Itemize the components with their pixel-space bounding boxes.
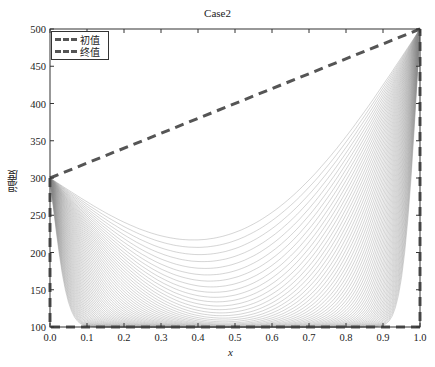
temperature-profile-curve [50, 29, 420, 306]
y-tick-label: 350 [30, 136, 46, 147]
legend-label: 终值 [80, 44, 100, 59]
y-axis-label: 温度 [5, 170, 21, 192]
temperature-profile-curve [50, 29, 420, 324]
dashed-line-icon [55, 50, 77, 53]
temperature-profile-curve [50, 29, 420, 325]
temperature-profile-curve [50, 29, 420, 316]
temperature-profile-curve [50, 29, 420, 318]
x-tick-label: 0.3 [154, 332, 167, 343]
y-tick-label: 300 [30, 173, 46, 184]
temperature-profile-curve [50, 29, 420, 326]
temperature-profile-curve [50, 29, 420, 326]
temperature-profile-curve [50, 29, 420, 287]
x-tick-label: 0.6 [265, 332, 278, 343]
y-tick-label: 450 [30, 61, 46, 72]
x-tick-label: 0.0 [43, 332, 56, 343]
x-tick-label: 0.2 [117, 332, 130, 343]
x-tick-label: 0.8 [339, 332, 352, 343]
legend: 初值 终值 [51, 31, 109, 60]
y-tick-label: 100 [30, 322, 46, 333]
y-tick-label: 150 [30, 285, 46, 296]
x-axis-label: x [228, 346, 233, 358]
legend-item-final: 终值 [55, 45, 100, 57]
x-tick-label: 0.9 [376, 332, 389, 343]
x-tick-label: 0.1 [80, 332, 93, 343]
x-tick-label: 1.0 [413, 332, 426, 343]
x-tick-label: 0.7 [302, 332, 315, 343]
x-tick-label: 0.5 [228, 332, 241, 343]
chart-title: Case2 [0, 7, 435, 19]
y-tick-label: 400 [30, 99, 46, 110]
dashed-line-icon [55, 38, 77, 41]
y-tick-label: 200 [30, 248, 46, 259]
x-tick-label: 0.4 [191, 332, 205, 343]
y-tick-label: 500 [30, 24, 46, 35]
y-tick-label: 250 [30, 210, 46, 221]
